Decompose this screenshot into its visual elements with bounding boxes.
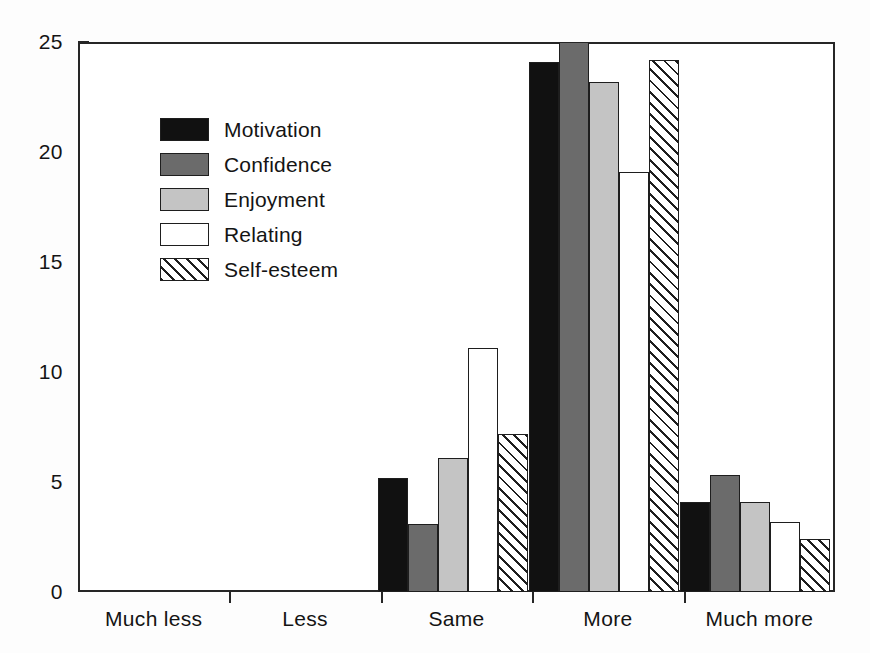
y-tick-label: 20 (0, 138, 63, 166)
y-tick-label: 10 (0, 358, 63, 386)
bar-motivation-much-more (680, 502, 710, 592)
legend-item-enjoyment: Enjoyment (160, 182, 338, 217)
legend-label-confidence: Confidence (224, 153, 332, 176)
legend-item-motivation: Motivation (160, 112, 338, 147)
x-axis-label-much-more: Much more (684, 604, 835, 634)
legend-item-confidence: Confidence (160, 147, 338, 182)
legend-item-relating: Relating (160, 217, 338, 252)
y-tick-label: 0 (0, 578, 63, 606)
legend-swatch-enjoyment (160, 188, 209, 211)
bar-motivation-more (529, 62, 559, 592)
bar-confidence-more (559, 43, 589, 592)
bar-self-esteem-more (649, 60, 679, 592)
x-axis-label-less: Less (229, 604, 380, 634)
bar-enjoyment-much-more (740, 502, 770, 592)
bar-motivation-same (378, 478, 408, 592)
x-axis-label-more: More (532, 604, 683, 634)
chart-legend: MotivationConfidenceEnjoymentRelatingSel… (160, 112, 338, 287)
x-axis-label-same: Same (381, 604, 532, 634)
bar-self-esteem-much-more (800, 539, 830, 592)
legend-swatch-self-esteem (160, 258, 209, 281)
y-tick-label: 25 (0, 28, 63, 56)
bar-enjoyment-same (438, 458, 468, 592)
bar-confidence-much-more (710, 475, 740, 592)
y-tick-label: 5 (0, 468, 63, 496)
x-tick-mark (532, 592, 534, 603)
x-tick-mark (381, 592, 383, 603)
legend-label-enjoyment: Enjoyment (224, 188, 325, 211)
x-tick-mark (684, 592, 686, 603)
legend-swatch-confidence (160, 153, 209, 176)
bar-enjoyment-more (589, 82, 619, 592)
legend-label-self-esteem: Self-esteem (224, 258, 338, 281)
bar-relating-much-more (770, 522, 800, 592)
bar-chart: 0510152025 Much lessLessSameMoreMuch mor… (0, 0, 870, 653)
legend-item-self-esteem: Self-esteem (160, 252, 338, 287)
legend-label-motivation: Motivation (224, 118, 322, 141)
legend-swatch-motivation (160, 118, 209, 141)
legend-swatch-relating (160, 223, 209, 246)
bar-relating-same (468, 348, 498, 592)
y-tick-label: 15 (0, 248, 63, 276)
bar-self-esteem-same (498, 434, 528, 592)
x-tick-mark (229, 592, 231, 603)
x-axis-label-much-less: Much less (78, 604, 229, 634)
bar-relating-more (619, 172, 649, 592)
bar-confidence-same (408, 524, 438, 592)
legend-label-relating: Relating (224, 223, 303, 246)
